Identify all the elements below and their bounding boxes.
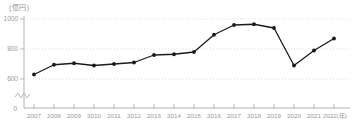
data-point — [312, 49, 316, 53]
y-tick-label: 600 — [7, 75, 18, 82]
x-tick-label: 2017 — [227, 112, 241, 119]
data-point — [72, 61, 76, 65]
data-point — [212, 33, 216, 37]
y-tick-label: 800 — [7, 45, 18, 52]
x-tick-label: 2016 — [207, 112, 221, 119]
data-point — [132, 61, 136, 65]
data-point — [92, 64, 96, 68]
y-tick-label: 1000 — [4, 15, 19, 22]
x-tick-label: 2013 — [147, 112, 161, 119]
x-tick-label: 2015 — [187, 112, 201, 119]
data-point — [192, 50, 196, 54]
data-point — [152, 53, 156, 57]
trend-line — [34, 24, 334, 74]
data-point — [292, 64, 296, 68]
plot-area: 6008001000020072008200920102011201220132… — [0, 0, 355, 129]
x-tick-label: 2020 — [287, 112, 301, 119]
x-tick-label: 2008 — [47, 112, 61, 119]
x-tick-label: 2014 — [167, 112, 181, 119]
data-point — [272, 26, 276, 30]
x-tick-label: 2021 — [307, 112, 321, 119]
line-chart: (億円) 60080010000200720082009201020112012… — [0, 0, 355, 129]
x-tick-label: 2019 — [267, 112, 281, 119]
data-point — [172, 52, 176, 56]
y-axis-unit-label: (億円) — [9, 2, 30, 12]
data-point — [232, 23, 236, 27]
data-point — [112, 62, 116, 66]
data-point — [32, 73, 36, 77]
data-point — [52, 63, 56, 67]
x-tick-label: 2012 — [127, 112, 141, 119]
x-tick-label: 2018 — [247, 112, 261, 119]
x-tick-label: 2009 — [67, 112, 81, 119]
axis-break-icon — [15, 93, 30, 98]
x-tick-label: 2010 — [87, 112, 101, 119]
data-point — [332, 37, 336, 41]
x-tick-label: 2007 — [27, 112, 41, 119]
data-point — [252, 22, 256, 26]
y-origin-label: 0 — [13, 105, 17, 112]
x-tick-label: 2011 — [107, 112, 121, 119]
x-tick-label: 2022(年) — [323, 112, 347, 120]
